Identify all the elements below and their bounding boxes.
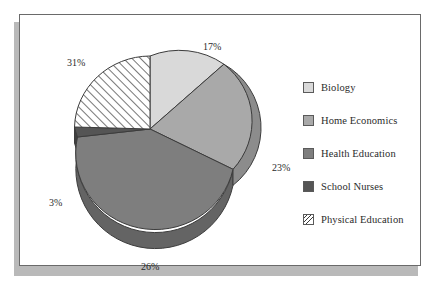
- data-label-physical-education: 31%: [67, 57, 85, 68]
- data-label-biology: 17%: [203, 41, 221, 52]
- legend-label-physical-education: Physical Education: [321, 214, 404, 225]
- legend-label-home-economics: Home Economics: [321, 115, 397, 126]
- data-label-school-nurses: 3%: [49, 197, 62, 208]
- legend-label-health-education: Health Education: [321, 148, 396, 159]
- legend-item-home-economics[interactable]: Home Economics: [303, 112, 427, 128]
- legend-item-biology[interactable]: Biology: [303, 79, 427, 95]
- legend-item-physical-education[interactable]: Physical Education: [303, 211, 427, 227]
- legend-swatch-icon-home-economics: [303, 115, 314, 126]
- legend-swatch-icon-school-nurses: [303, 181, 314, 192]
- pie-chart-figure: 17% 23% 26% 3% 31% Biology Home Economic…: [0, 0, 427, 285]
- pie-slice-physical-education: [75, 56, 151, 129]
- legend-label-biology: Biology: [321, 82, 356, 93]
- legend-swatch-icon-biology: [303, 82, 314, 93]
- legend-item-school-nurses[interactable]: School Nurses: [303, 178, 427, 194]
- data-label-health-education: 26%: [141, 261, 159, 272]
- legend-swatch-icon-physical-education: [303, 214, 314, 225]
- legend-item-health-education[interactable]: Health Education: [303, 145, 427, 161]
- chart-panel: 17% 23% 26% 3% 31% Biology Home Economic…: [19, 14, 421, 266]
- legend-label-school-nurses: School Nurses: [321, 181, 383, 192]
- legend-swatch-icon-health-education: [303, 148, 314, 159]
- chart-legend: Biology Home Economics Health Education …: [303, 79, 427, 244]
- data-label-home-economics: 23%: [272, 162, 290, 173]
